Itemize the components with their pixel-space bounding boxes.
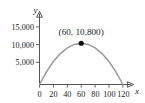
y-tick-label-5000: 5,000 <box>16 58 34 67</box>
vertex-annotation-label: (60, 10,800) <box>59 27 104 37</box>
x-tick-label-40: 40 <box>63 90 71 99</box>
y-tick-labels: 5,000 10,000 15,000 <box>11 23 34 67</box>
x-tick-labels: 0 20 40 60 80 100 120 <box>37 90 129 99</box>
y-axis-label: y <box>33 5 38 15</box>
y-tick-marks <box>36 27 40 62</box>
x-tick-label-120: 120 <box>117 90 129 99</box>
x-tick-label-0: 0 <box>37 90 41 99</box>
x-tick-label-80: 80 <box>91 90 99 99</box>
x-tick-label-60: 60 <box>77 90 85 99</box>
parabola-curve <box>40 43 123 84</box>
x-tick-label-20: 20 <box>49 90 57 99</box>
x-axis-label: x <box>134 86 139 96</box>
x-tick-label-100: 100 <box>103 90 115 99</box>
y-tick-label-10000: 10,000 <box>11 41 34 50</box>
vertex-point-marker <box>79 41 84 46</box>
chart-canvas: y x 5,000 10,000 15,000 <box>0 0 145 103</box>
y-tick-label-15000: 15,000 <box>11 23 34 32</box>
parabola-chart-figure: y x 5,000 10,000 15,000 <box>0 0 145 103</box>
